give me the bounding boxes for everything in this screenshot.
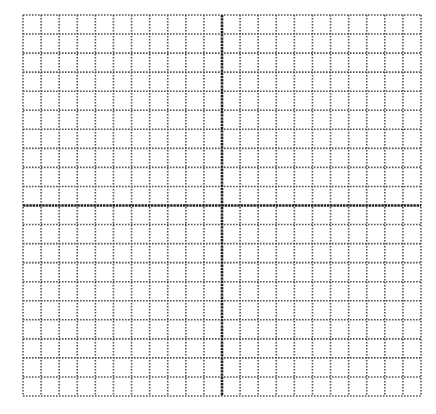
coordinate-grid [0,0,436,414]
